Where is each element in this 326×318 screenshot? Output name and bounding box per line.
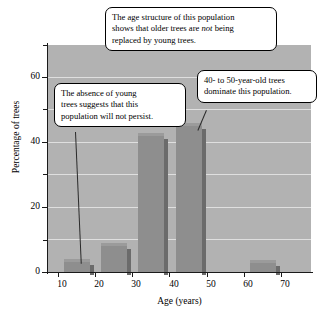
callout-dominant-cohort-line-2: dominate this population. xyxy=(204,86,310,97)
x-tick-label-30: 30 xyxy=(121,279,151,289)
callout-age-structure-line-3: replaced by young trees. xyxy=(112,35,270,46)
callout-absence-young-line-2: trees suggests that this xyxy=(61,99,179,110)
x-tick-40 xyxy=(169,273,170,277)
x-tick-10 xyxy=(58,273,59,277)
figure-tree-age-structure: 60 40 20 0 10 20 30 40 50 60 70 Percenta… xyxy=(0,0,326,318)
y-axis-line xyxy=(47,43,48,274)
callout-absence-young: The absence of young trees suggests that… xyxy=(54,83,186,127)
y-tick-label-0: 0 xyxy=(22,266,40,276)
bar-age-40 xyxy=(138,136,164,272)
y-tick-minor-30 xyxy=(43,174,47,175)
x-tick-50 xyxy=(207,273,208,277)
bar-top-face-30 xyxy=(101,243,127,246)
x-tick-label-60: 60 xyxy=(233,279,263,289)
y-tick-label-40: 40 xyxy=(22,136,40,146)
bar-side-face-70 xyxy=(276,266,280,275)
x-tick-label-70: 70 xyxy=(270,279,300,289)
y-tick-label-20: 20 xyxy=(22,201,40,211)
x-tick-60 xyxy=(244,273,245,277)
bar-top-face-40 xyxy=(138,133,164,136)
x-tick-30 xyxy=(132,273,133,277)
bar-age-70 xyxy=(250,263,276,272)
callout-age-structure-line-2-b: being xyxy=(212,23,233,33)
y-tick-60 xyxy=(42,77,47,78)
bar-side-face-50 xyxy=(202,129,206,275)
x-tick-label-20: 20 xyxy=(84,279,114,289)
callout-age-structure-emphasis: not xyxy=(202,23,213,33)
callout-absence-young-line-3: population will not persist. xyxy=(61,111,179,122)
x-axis-line xyxy=(47,272,313,273)
callout-age-structure-line-1: The age structure of this population xyxy=(112,12,270,23)
y-tick-20 xyxy=(42,207,47,208)
bar-top-face-20 xyxy=(64,259,90,262)
bar-side-face-20 xyxy=(90,265,94,275)
y-tick-label-60: 60 xyxy=(22,71,40,81)
callout-dominant-cohort-line-1: 40- to 50-year-old trees xyxy=(204,75,310,86)
bar-side-face-40 xyxy=(164,139,168,275)
bar-age-20 xyxy=(64,262,90,272)
x-tick-20 xyxy=(95,273,96,277)
callout-absence-young-line-1: The absence of young xyxy=(61,88,179,99)
x-axis-title: Age (years) xyxy=(48,296,311,306)
y-tick-minor-50 xyxy=(43,109,47,110)
y-axis-title: Percentage of trees xyxy=(11,77,21,197)
y-tick-40 xyxy=(42,142,47,143)
bar-age-50 xyxy=(176,126,202,272)
callout-dominant-cohort: 40- to 50-year-old trees dominate this p… xyxy=(197,70,317,103)
x-tick-label-10: 10 xyxy=(47,279,77,289)
y-tick-minor-10 xyxy=(43,240,47,241)
callout-age-structure-line-2: shows that older trees are not being xyxy=(112,23,270,34)
x-tick-70 xyxy=(281,273,282,277)
callout-age-structure-line-2-a: shows that older trees are xyxy=(112,23,202,33)
callout-age-structure: The age structure of this population sho… xyxy=(105,7,277,51)
x-tick-label-50: 50 xyxy=(196,279,226,289)
y-tick-0 xyxy=(42,272,47,273)
bar-age-30 xyxy=(101,246,127,272)
bar-top-face-70 xyxy=(250,260,276,263)
x-tick-label-40: 40 xyxy=(159,279,189,289)
y-tick-minor-70 xyxy=(43,45,47,46)
